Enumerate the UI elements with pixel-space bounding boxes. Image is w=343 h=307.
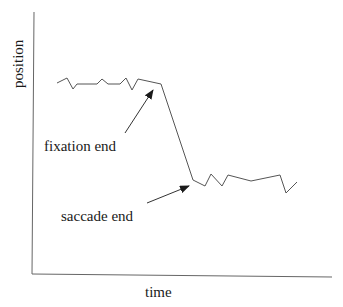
x-axis xyxy=(32,274,332,277)
y-axis-label: position xyxy=(10,39,26,88)
diagram-svg: position time fixation end saccade end xyxy=(0,0,343,307)
fixation-end-arrow xyxy=(125,90,153,133)
diagram-canvas: position time fixation end saccade end xyxy=(0,0,343,307)
saccade-end-arrow xyxy=(147,186,189,203)
fixation-end-label: fixation end xyxy=(44,138,117,154)
saccade-end-label: saccade end xyxy=(61,208,134,224)
y-axis xyxy=(32,12,34,274)
x-axis-label: time xyxy=(145,284,172,300)
eye-position-trace xyxy=(57,78,297,193)
